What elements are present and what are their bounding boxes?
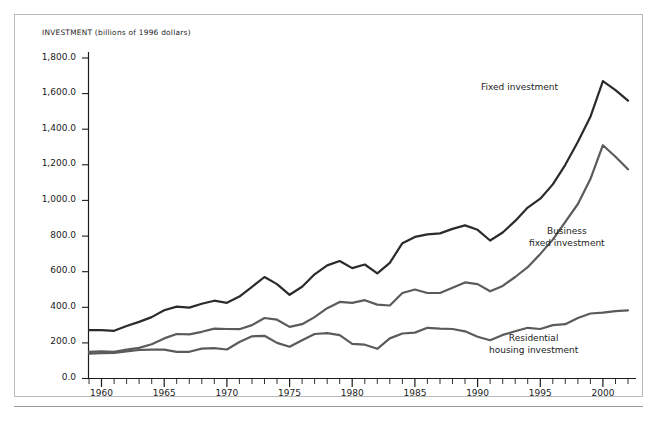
- y-axis-tick-label: 600.0: [20, 265, 76, 275]
- x-axis-ticks: [89, 379, 628, 388]
- series-label-fixed-investment: Fixed investment: [481, 82, 558, 94]
- series-paths: [89, 81, 628, 354]
- x-axis-tick-label: 1970: [207, 388, 247, 398]
- series-label-line: housing investment: [489, 345, 578, 357]
- chart-figure: INVESTMENT (billions of 1996 dollars) 0.…: [0, 0, 657, 423]
- x-axis-tick-label: 1980: [332, 388, 372, 398]
- series-label-line: Residential: [489, 333, 578, 345]
- x-axis-tick-label: 1965: [144, 388, 184, 398]
- x-axis-tick-label: 1975: [270, 388, 310, 398]
- series-label-residential-housing-investment: Residential housing investment: [489, 333, 578, 356]
- y-axis-tick-label: 200.0: [20, 336, 76, 346]
- x-axis-tick-label: 1985: [395, 388, 435, 398]
- axis-lines: [89, 52, 637, 379]
- x-axis-tick-label: 1990: [458, 388, 498, 398]
- series-label-line: Fixed investment: [481, 82, 558, 94]
- y-axis-tick-label: 400.0: [20, 301, 76, 311]
- x-axis-tick-label: 1995: [520, 388, 560, 398]
- investment-line-chart: [0, 0, 657, 423]
- y-axis-tick-label: 1,800.0: [20, 52, 76, 62]
- x-axis-tick-label: 1960: [82, 388, 122, 398]
- y-axis-tick-label: 0.0: [20, 372, 76, 382]
- y-axis-tick-label: 1,400.0: [20, 123, 76, 133]
- y-axis-tick-label: 1,000.0: [20, 194, 76, 204]
- series-label-line: fixed investment: [529, 238, 605, 250]
- y-axis-tick-label: 1,200.0: [20, 158, 76, 168]
- series-label-business-fixed-investment: Business fixed investment: [529, 226, 605, 249]
- y-axis-tick-label: 800.0: [20, 230, 76, 240]
- series-line-fixed-investment: [89, 81, 628, 331]
- x-axis-tick-label: 2000: [583, 388, 623, 398]
- series-label-line: Business: [529, 226, 605, 238]
- footer-divider: [14, 406, 643, 407]
- y-axis-tick-label: 1,600.0: [20, 87, 76, 97]
